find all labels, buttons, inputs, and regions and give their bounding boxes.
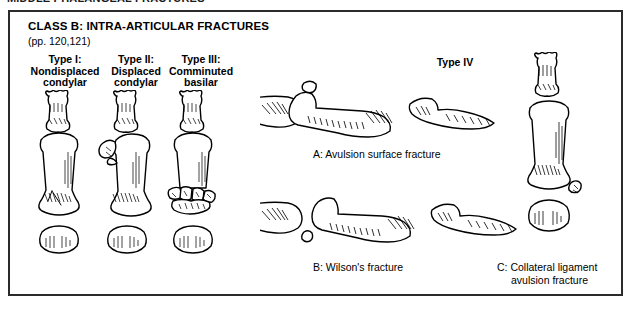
figure-frame: CLASS B: INTRA-ARTICULAR FRACTURES (pp. … [8,10,623,296]
illustration-type-1-nondisplaced-condylar [28,90,90,290]
caption-type-3: Type III: Comminuted basilar [160,54,242,89]
running-header: MIDDLE PHALANGEAL FRACTURES [7,0,205,5]
caption-item-c-line-2: avulsion fracture [497,274,597,287]
caption-item-a: A: Avulsion surface fracture [313,148,441,161]
caption-type-1-line-1: Type I: [24,54,106,66]
illustration-item-c-collateral-ligament-avulsion [515,52,585,257]
illustration-item-a-avulsion-surface-fracture [260,80,540,148]
figure-class-title: CLASS B: INTRA-ARTICULAR FRACTURES [28,20,269,32]
caption-type-3-line-3: basilar [160,77,242,89]
caption-item-b: B: Wilson's fracture [313,261,403,274]
caption-type-1: Type I: Nondisplaced condylar [24,54,106,89]
caption-item-c-line-1: C: Collateral ligament [497,261,597,273]
illustration-type-2-displaced-condylar [96,90,158,290]
figure-page-reference: (pp. 120,121) [28,35,90,47]
caption-item-c: C: Collateral ligament avulsion fracture [497,261,597,287]
illustration-type-3-comminuted-basilar [162,90,224,290]
caption-type-3-line-1: Type III: [160,54,242,66]
illustration-item-b-wilsons-fracture [260,190,540,258]
caption-type-4-heading: Type IV [410,56,500,68]
caption-type-1-line-3: condylar [24,77,106,89]
